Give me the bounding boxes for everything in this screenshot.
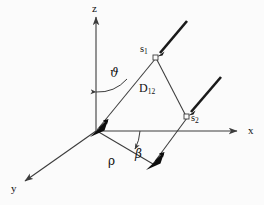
theta-angle-label: ϑ: [110, 67, 119, 79]
s2-label: s2: [191, 113, 199, 124]
theta-angle-arc: [96, 79, 127, 92]
s1-label: s1: [140, 44, 148, 55]
diagram-canvas: [0, 0, 264, 205]
s2-marker: [184, 114, 189, 119]
z-axis-label: z: [92, 3, 97, 14]
ray-from-s1: [160, 21, 187, 53]
ray-from-s2: [191, 77, 221, 112]
rho-vector-label: ρ: [108, 155, 115, 167]
d12-label: D12: [139, 82, 155, 94]
d12-label-text: D: [139, 81, 148, 95]
physics-diagram: z x y ϑ β ρ s1 s2 D12: [0, 0, 264, 205]
y-axis-line: [25, 131, 96, 181]
rho-vector-segment: [97, 131, 153, 164]
x-axis-label: x: [248, 125, 254, 136]
s2-label-subscript: 2: [195, 116, 199, 125]
d12-label-subscript: 12: [148, 87, 156, 96]
s2-to-rho-tip-segment: [153, 118, 187, 164]
d12-segment: [156, 58, 187, 118]
y-axis-label: y: [11, 183, 17, 194]
beta-angle-label: β: [135, 148, 142, 160]
s1-marker: [153, 55, 158, 60]
s1-label-subscript: 1: [144, 47, 148, 56]
